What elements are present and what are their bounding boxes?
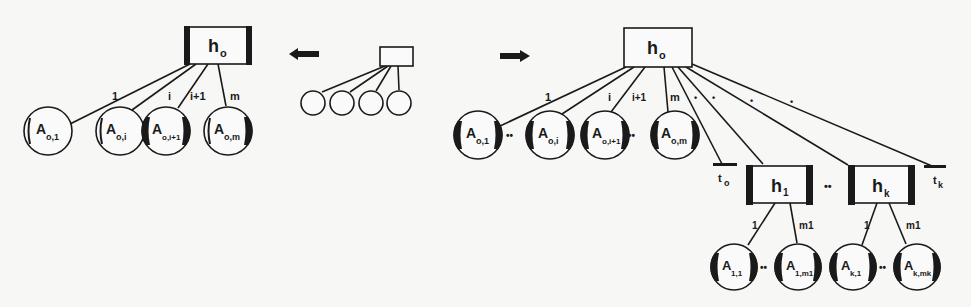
left-edge-label-1: 1 — [112, 90, 118, 102]
right-root-node: h o — [624, 28, 692, 67]
left-edge-label-i: i — [168, 90, 171, 102]
tree-diagram: h o 1 i i+1 m A o,1 A o,i A o,i+1 — [0, 0, 971, 307]
middle-leaf — [359, 91, 383, 115]
svg-text:h: h — [771, 176, 782, 196]
left-leaf-m: A o,m — [204, 107, 253, 155]
right-edge-label-i1: i+1 — [632, 92, 647, 103]
svg-text:o: o — [724, 178, 730, 188]
left-root-node: h o — [184, 26, 252, 65]
svg-text:A: A — [214, 121, 224, 137]
svg-text:1,1: 1,1 — [731, 269, 743, 278]
left-root-sub: o — [220, 47, 227, 59]
ellipsis: •• — [760, 262, 768, 273]
svg-text:k,mk: k,mk — [913, 269, 932, 278]
left-leaf-i: A o,i — [96, 107, 144, 155]
middle-generic-tree — [301, 47, 413, 115]
right-root-sub: o — [659, 49, 666, 61]
right-leaf-1: A o,1 — [453, 111, 502, 159]
right-dot: • — [790, 97, 793, 107]
svg-text:1: 1 — [864, 220, 870, 231]
left-edge-i — [132, 64, 196, 110]
right-leaf-i: A o,i — [525, 111, 574, 159]
svg-text:1,m1: 1,m1 — [795, 269, 814, 278]
svg-text:A: A — [592, 125, 602, 141]
left-edge-m — [218, 64, 226, 106]
middle-leaf — [387, 91, 411, 115]
svg-text:1: 1 — [752, 220, 758, 231]
svg-text:o,m: o,m — [224, 132, 240, 142]
svg-text:A: A — [152, 121, 162, 137]
svg-text:o,1: o,1 — [46, 132, 59, 142]
right-edge-tk — [692, 64, 932, 166]
svg-text:k,1: k,1 — [850, 269, 862, 278]
left-root-label: h — [208, 36, 219, 56]
left-leaf-1: A o,1 — [24, 107, 72, 155]
ellipsis: •• — [879, 262, 887, 273]
svg-text:o,1: o,1 — [476, 136, 489, 146]
terminal-tk: t k — [924, 165, 946, 190]
svg-text:h: h — [872, 176, 883, 196]
svg-text:t: t — [718, 172, 722, 184]
right-edge-label-1: 1 — [545, 91, 551, 103]
svg-text:k: k — [884, 188, 890, 199]
left-edge-label-m: m — [230, 90, 240, 102]
left-leaf-i1: A o,i+1 — [141, 107, 190, 155]
right-edge-i1 — [611, 67, 645, 112]
svg-text:A: A — [106, 121, 116, 137]
right-edge-hk — [686, 67, 848, 165]
svg-text:A: A — [661, 125, 671, 141]
svg-text:k: k — [938, 180, 944, 190]
right-edge-m — [664, 67, 668, 112]
svg-text:t: t — [933, 174, 937, 186]
middle-leaf — [330, 91, 354, 115]
right-dot: • — [694, 93, 697, 103]
svg-text:A: A — [36, 121, 46, 137]
left-tree: h o 1 i i+1 m A o,1 A o,i A o,i+1 — [24, 26, 253, 155]
right-edge-label-i: i — [608, 91, 611, 103]
right-edge-label-m: m — [670, 91, 680, 103]
middle-root-node — [380, 47, 413, 66]
right-edge-i — [562, 67, 634, 114]
svg-text:A: A — [538, 125, 548, 141]
svg-text:1: 1 — [783, 187, 789, 198]
right-dot: • — [750, 96, 753, 106]
right-arrow-icon — [500, 50, 530, 62]
ellipsis: •• — [824, 180, 832, 192]
right-tree: h o 1 i i+1 m • • • • A o,1 •• A o,i — [453, 28, 946, 290]
left-edge-label-i1: i+1 — [190, 90, 206, 102]
svg-text:o,m: o,m — [671, 136, 687, 146]
right-root-label: h — [647, 38, 658, 58]
svg-text:o,i: o,i — [116, 132, 127, 142]
svg-text:o,i+1: o,i+1 — [162, 133, 181, 142]
right-leaf-i1: A o,i+1 — [580, 111, 629, 159]
terminal-t0: t o — [713, 163, 737, 188]
svg-text:m1: m1 — [906, 220, 921, 231]
subtree-hk: h k 1 m1 A k,1 •• A k,mk — [829, 165, 941, 290]
svg-text:o,i: o,i — [548, 136, 559, 146]
svg-text:A: A — [466, 125, 476, 141]
ellipsis: •• — [628, 130, 636, 141]
svg-text:o,i+1: o,i+1 — [602, 137, 621, 146]
right-leaf-m: A o,m — [650, 111, 699, 159]
svg-text:m1: m1 — [799, 220, 814, 231]
left-arrow-icon — [289, 48, 319, 60]
middle-leaf — [301, 91, 325, 115]
ellipsis: •• — [506, 130, 514, 141]
right-dot: • — [712, 93, 715, 103]
